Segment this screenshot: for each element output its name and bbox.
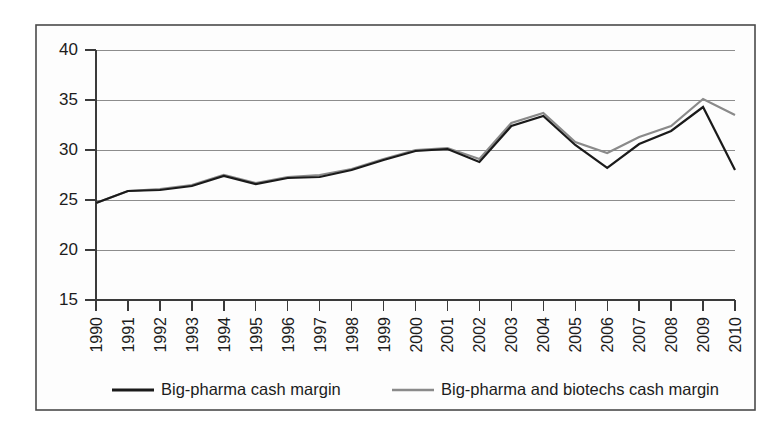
- x-tick-label: 2000: [408, 317, 425, 353]
- y-tick-label: 15: [59, 290, 78, 309]
- line-chart-figure: 152025303540 199019911992199319941995199…: [0, 0, 784, 432]
- x-tick-label: 2010: [727, 317, 744, 353]
- x-tick-label: 1991: [120, 317, 137, 353]
- x-tick-label: 1996: [280, 317, 297, 353]
- x-tick-label: 2006: [599, 317, 616, 353]
- x-tick-label: 2008: [663, 317, 680, 353]
- x-tick-label: 2001: [439, 317, 456, 353]
- y-tick-label: 30: [59, 140, 78, 159]
- x-tick-label: 1997: [312, 317, 329, 353]
- x-tick-label: 2002: [471, 317, 488, 353]
- y-tick-label: 20: [59, 240, 78, 259]
- x-tick-label: 1999: [376, 317, 393, 353]
- x-tick-label: 2005: [567, 317, 584, 353]
- x-tick-label: 2003: [503, 317, 520, 353]
- y-tick-label: 25: [59, 190, 78, 209]
- x-tick-label: 2007: [631, 317, 648, 353]
- x-tick-label: 1995: [248, 317, 265, 353]
- x-tick-label: 1990: [88, 317, 105, 353]
- y-tick-label: 40: [59, 40, 78, 59]
- x-tick-label: 1994: [216, 317, 233, 353]
- legend-label: Big-pharma and biotechs cash margin: [441, 380, 719, 398]
- x-tick-label: 1998: [344, 317, 361, 353]
- y-tick-label: 35: [59, 90, 78, 109]
- x-tick-label: 1992: [152, 317, 169, 353]
- x-tick-label: 2004: [535, 317, 552, 353]
- x-tick-label: 1993: [184, 317, 201, 353]
- x-tick-label: 2009: [695, 317, 712, 353]
- legend-label: Big-pharma cash margin: [161, 380, 341, 398]
